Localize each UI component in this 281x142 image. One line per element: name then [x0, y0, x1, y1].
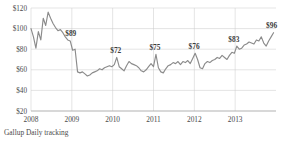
y-axis-tick-label: $60	[16, 66, 27, 74]
line-chart-svg: $120$100$80$60$40$20 2008200920102011201…	[0, 0, 281, 126]
data-point-label: $89	[65, 29, 76, 38]
data-point-label: $76	[189, 42, 200, 51]
x-axis-tick-label: 2009	[64, 115, 79, 124]
data-point-labels: $89$72$75$76$83$96	[65, 21, 277, 56]
data-point-label: $75	[149, 43, 160, 52]
y-axis-tick-labels: $120$100$80$60$40$20	[13, 5, 28, 116]
data-point-label: $72	[110, 46, 121, 55]
data-point-label: $96	[266, 21, 277, 30]
plot-area: $120$100$80$60$40$20 2008200920102011201…	[0, 0, 281, 126]
gridlines-group	[31, 8, 276, 111]
y-axis-tick-label: $80	[16, 46, 27, 54]
y-axis-tick-label: $40	[16, 87, 27, 95]
x-axis-tick-label: 2008	[24, 115, 39, 124]
source-note: Gallup Daily tracking	[4, 128, 68, 137]
y-axis-tick-label: $100	[13, 25, 28, 33]
x-axis-tick-label: 2010	[105, 115, 120, 124]
data-point-label: $83	[228, 35, 239, 44]
x-axis-tick-label: 2011	[146, 115, 161, 124]
x-axis-tick-labels: 200820092010201120122013	[24, 115, 243, 124]
y-axis-tick-label: $120	[13, 5, 28, 13]
chart-container: $120$100$80$60$40$20 2008200920102011201…	[0, 0, 281, 142]
x-axis-tick-label: 2013	[228, 115, 243, 124]
x-axis-tick-label: 2012	[187, 115, 202, 124]
